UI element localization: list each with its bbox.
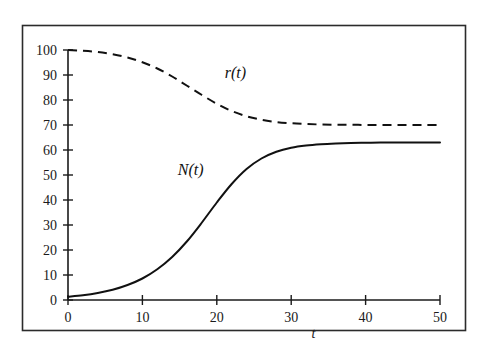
y-tick-label: 20 — [43, 243, 57, 258]
x-tick-label: 40 — [359, 310, 373, 325]
y-tick-label: 50 — [43, 168, 57, 183]
y-tick-label: 60 — [43, 143, 57, 158]
y-tick-label: 40 — [43, 193, 57, 208]
y-tick-label: 10 — [43, 268, 57, 283]
figure-container: 0102030405060708090100 01020304050 N(t) … — [0, 0, 488, 349]
x-tick-label: 30 — [284, 310, 298, 325]
x-tick-label: 20 — [210, 310, 224, 325]
curve-label-n-of-t: N(t) — [177, 161, 204, 179]
y-tick-label: 100 — [36, 43, 57, 58]
x-tick-label: 50 — [433, 310, 447, 325]
x-tick-label: 0 — [65, 310, 72, 325]
y-tick-label: 30 — [43, 218, 57, 233]
x-tick-label: 10 — [135, 310, 149, 325]
y-tick-label: 0 — [50, 293, 57, 308]
y-tick-label: 70 — [43, 118, 57, 133]
y-tick-label: 80 — [43, 93, 57, 108]
curve-label-r-of-t: r(t) — [225, 64, 246, 82]
chart-plot: 0102030405060708090100 01020304050 N(t) … — [0, 0, 488, 349]
y-tick-label: 90 — [43, 68, 57, 83]
